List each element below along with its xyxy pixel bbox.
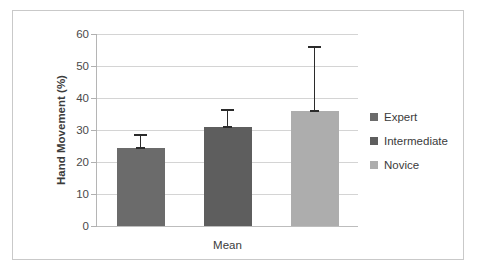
y-axis-tick-label: 50 xyxy=(49,60,89,72)
bar-expert xyxy=(117,148,165,226)
y-axis-tick-label: 0 xyxy=(49,220,89,232)
error-bar-cap-bottom-intermediate xyxy=(223,126,232,128)
chart-container: Hand Movement (%) 6050403020100 Mean Exp… xyxy=(12,10,464,260)
error-bar-line-intermediate xyxy=(227,110,228,127)
x-axis-title: Mean xyxy=(97,239,358,251)
gridline xyxy=(97,66,358,67)
gridline xyxy=(97,98,358,99)
y-axis-tick xyxy=(91,130,97,131)
legend-swatch-icon xyxy=(370,113,378,121)
y-axis-tick xyxy=(91,162,97,163)
y-axis-tick-label: 20 xyxy=(49,156,89,168)
legend-swatch-icon xyxy=(370,161,378,169)
bar-novice xyxy=(291,111,339,226)
error-bar-cap-top-intermediate xyxy=(221,109,234,111)
y-axis-tick-label: 40 xyxy=(49,92,89,104)
legend-label: Expert xyxy=(384,111,417,123)
legend-label: Novice xyxy=(384,159,419,171)
gridline xyxy=(97,34,358,35)
y-axis-tick xyxy=(91,98,97,99)
error-bar-cap-bottom-expert xyxy=(136,147,145,149)
legend-item-novice[interactable]: Novice xyxy=(370,159,477,171)
chart-legend: ExpertIntermediateNovice xyxy=(370,111,477,183)
y-axis-tick-label: 10 xyxy=(49,188,89,200)
y-axis-tick xyxy=(91,194,97,195)
error-bar-cap-top-novice xyxy=(308,46,321,48)
legend-item-expert[interactable]: Expert xyxy=(370,111,477,123)
bar-intermediate xyxy=(204,127,252,226)
legend-label: Intermediate xyxy=(384,135,448,147)
gridline xyxy=(97,226,358,227)
error-bar-cap-top-expert xyxy=(134,134,147,136)
y-axis-tick xyxy=(91,226,97,227)
error-bar-line-novice xyxy=(314,47,315,111)
error-bar-cap-bottom-novice xyxy=(310,110,319,112)
legend-item-intermediate[interactable]: Intermediate xyxy=(370,135,477,147)
y-axis-tick-label: 30 xyxy=(49,124,89,136)
legend-swatch-icon xyxy=(370,137,378,145)
y-axis-tick xyxy=(91,34,97,35)
y-axis-tick xyxy=(91,66,97,67)
y-axis-tick-label: 60 xyxy=(49,28,89,40)
y-axis-tick-labels: 6050403020100 xyxy=(37,11,89,259)
plot-area xyxy=(97,34,358,226)
